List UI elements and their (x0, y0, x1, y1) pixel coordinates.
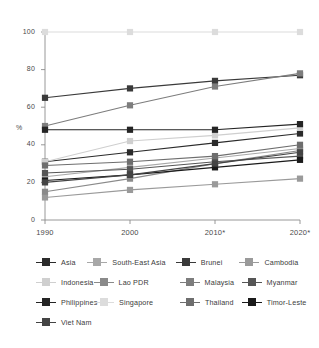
legend-label: South-East Asia (112, 258, 165, 267)
legend-label: Viet Nam (61, 318, 92, 327)
legend-marker-icon (87, 257, 107, 267)
y-tick-label: 20 (9, 178, 35, 185)
plot-area: % 100806040200 199020002010*2020* (0, 0, 319, 240)
legend-label: Malaysia (205, 278, 235, 287)
legend-marker-icon (242, 277, 262, 287)
legend-marker-icon (176, 257, 196, 267)
legend-item-singapore[interactable]: Singapore (94, 292, 180, 312)
x-tick-label: 2000 (107, 228, 153, 237)
legend-label: Thailand (205, 298, 234, 307)
legend-item-cambodia[interactable]: Cambodia (239, 252, 319, 272)
legend-marker-icon (180, 297, 200, 307)
chart-figure: % 100806040200 199020002010*2020* AsiaSo… (0, 0, 319, 348)
legend-marker-icon (180, 277, 200, 287)
legend-label: Philippines (61, 298, 97, 307)
legend-marker-icon (239, 257, 259, 267)
legend-row: IndonesiaLao PDRMalaysiaMyanmar (0, 272, 319, 292)
y-tick-label: 100 (9, 28, 35, 35)
legend-item-brunei[interactable]: Brunei (176, 252, 240, 272)
legend-item-lao-pdr[interactable]: Lao PDR (94, 272, 180, 292)
y-tick-label: 0 (9, 216, 35, 223)
chart-legend: AsiaSouth-East AsiaBruneiCambodiaIndones… (0, 252, 319, 348)
y-tick-label: 80 (9, 65, 35, 72)
legend-label: Cambodia (264, 258, 298, 267)
legend-marker-icon (94, 297, 114, 307)
legend-item-viet-nam[interactable]: Viet Nam (36, 312, 94, 332)
legend-label: Myanmar (267, 278, 298, 287)
x-tick-label: 2020* (277, 228, 319, 237)
y-tick-label: 60 (9, 103, 35, 110)
legend-label: Singapore (119, 298, 153, 307)
legend-label: Lao PDR (119, 278, 149, 287)
legend-row: AsiaSouth-East AsiaBruneiCambodia (0, 252, 319, 272)
x-tick-label: 1990 (22, 228, 68, 237)
legend-marker-icon (36, 277, 56, 287)
legend-marker-icon (36, 257, 56, 267)
legend-label: Brunei (201, 258, 223, 267)
legend-marker-icon (94, 277, 114, 287)
legend-item-asia[interactable]: Asia (36, 252, 87, 272)
legend-marker-icon (36, 297, 56, 307)
chart-canvas (0, 0, 319, 240)
legend-label: Indonesia (61, 278, 94, 287)
legend-row: Viet Nam (0, 312, 319, 332)
legend-row: PhilippinesSingaporeThailandTimor-Leste (0, 292, 319, 312)
y-tick-label: 40 (9, 140, 35, 147)
y-axis-title: % (16, 124, 22, 131)
legend-marker-icon (242, 297, 262, 307)
legend-item-myanmar[interactable]: Myanmar (242, 272, 319, 292)
legend-item-south-east-asia[interactable]: South-East Asia (87, 252, 175, 272)
legend-item-timor-leste[interactable]: Timor-Leste (242, 292, 319, 312)
legend-item-thailand[interactable]: Thailand (180, 292, 242, 312)
legend-item-philippines[interactable]: Philippines (36, 292, 94, 312)
legend-label: Timor-Leste (267, 298, 307, 307)
legend-item-indonesia[interactable]: Indonesia (36, 272, 94, 292)
legend-label: Asia (61, 258, 76, 267)
x-tick-label: 2010* (192, 228, 238, 237)
legend-marker-icon (36, 317, 56, 327)
legend-item-malaysia[interactable]: Malaysia (180, 272, 242, 292)
